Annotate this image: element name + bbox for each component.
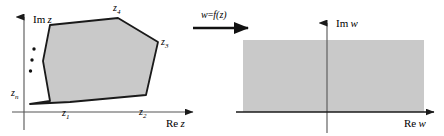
region-w-strip xyxy=(243,40,424,112)
continuation-dot xyxy=(30,58,33,61)
vertex-label-z1-sub: 1 xyxy=(66,113,70,121)
polygon-region-z xyxy=(30,18,158,104)
w-imaginary-axis-label-var: w xyxy=(350,17,357,29)
z-imaginary-axis-label-prefix: Im xyxy=(33,13,45,25)
mapping-function-label-arg: (z) xyxy=(216,9,227,20)
z-imaginary-axis-label: Im z xyxy=(33,14,52,25)
vertex-label-z1: z1 xyxy=(62,108,69,121)
vertex-label-zn-sub: n xyxy=(15,93,19,101)
vertex-label-z3-sub: 3 xyxy=(165,42,169,50)
w-real-axis-label: Re w xyxy=(404,118,426,129)
left-panel-z-plane xyxy=(12,17,193,130)
w-real-axis-label-var: w xyxy=(418,117,425,129)
z-real-axis-label: Re z xyxy=(166,118,185,129)
vertex-label-zn: zn xyxy=(11,88,18,101)
vertex-label-z2-sub: 2 xyxy=(143,112,147,120)
z-real-axis-label-var: z xyxy=(180,117,184,129)
continuation-dot xyxy=(29,69,32,72)
continuation-dot xyxy=(32,47,35,50)
vertex-label-z4-sub: 4 xyxy=(117,8,121,16)
vertex-label-z4: z4 xyxy=(113,3,120,16)
vertex-label-z2: z2 xyxy=(139,107,146,120)
mapping-function-label: w=f(z) xyxy=(201,10,227,20)
w-real-axis-label-prefix: Re xyxy=(404,117,416,129)
z-imaginary-axis-label-var: z xyxy=(47,13,51,25)
vertex-label-z3: z3 xyxy=(161,37,168,50)
z-real-axis-label-prefix: Re xyxy=(166,117,178,129)
mapping-function-label-w: w xyxy=(201,9,208,20)
w-imaginary-axis-label-prefix: Im xyxy=(336,17,348,29)
w-imaginary-axis-label: Im w xyxy=(336,18,358,29)
